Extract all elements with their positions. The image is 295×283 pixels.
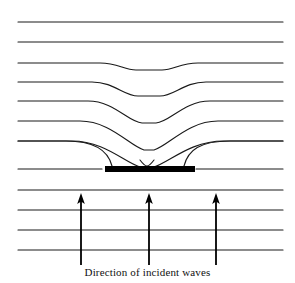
figure-caption: Direction of incident waves: [0, 266, 295, 279]
wave-refraction-figure: Direction of incident waves: [0, 0, 295, 283]
wave-diagram-canvas: [0, 0, 295, 283]
bar-obstacle: [105, 166, 195, 172]
